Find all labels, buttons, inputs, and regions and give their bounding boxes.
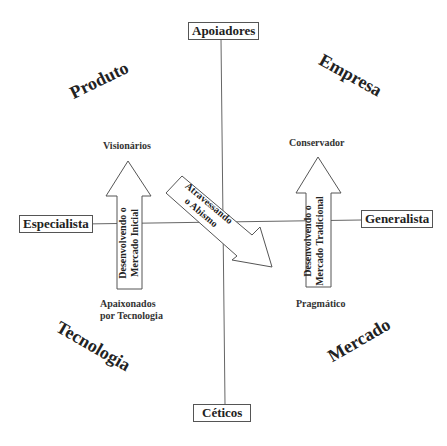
axis-left-especialista: Especialista [19, 215, 93, 233]
label-conservador: Conservador [289, 137, 345, 149]
left-arrow-text-line1: Desenvolvendo o [117, 193, 129, 293]
right-arrow-text-line1: Desenvolvendo o [302, 185, 314, 297]
axis-top-apoiadores: Apoiadores [188, 22, 259, 40]
diagram-canvas: Apoiadores Céticos Especialista Generali… [0, 0, 447, 446]
left-arrow-text: Desenvolvendo o Mercado Inicial [117, 193, 141, 293]
label-visionarios: Visionários [103, 140, 151, 152]
label-apaixonados-line2: por Tecnologia [100, 310, 163, 322]
axis-bottom-ceticos: Céticos [193, 404, 251, 422]
axis-right-generalista: Generalista [361, 210, 433, 228]
label-apaixonados-line1: Apaixonados [100, 298, 163, 310]
label-pragmatico: Pragmático [296, 298, 345, 310]
left-arrow-text-line2: Mercado Inicial [129, 193, 141, 293]
label-apaixonados: Apaixonados por Tecnologia [100, 298, 163, 322]
right-arrow-text-line2: Mercado Tradicional [314, 185, 326, 297]
right-arrow-text: Desenvolvendo o Mercado Tradicional [302, 185, 326, 297]
